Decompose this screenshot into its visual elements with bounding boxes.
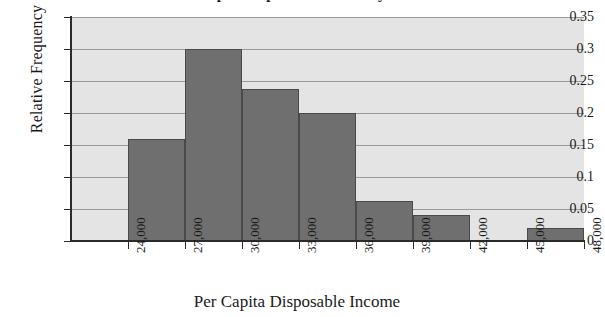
x-tick-mark [299,242,300,249]
x-tick-label: 48,000 [589,217,605,253]
bars-layer [71,17,584,241]
y-tick-label: 0.05 [532,202,594,216]
chart-title: Per Capita Disposable Income by State [0,0,594,3]
x-axis-title: Per Capita Disposable Income [0,292,594,312]
x-tick-mark [356,242,357,249]
y-tick-mark [64,241,71,242]
x-tick-mark [242,242,243,249]
x-tick-label: 42,000 [475,217,491,253]
y-tick-mark [64,113,71,114]
x-tick-mark [128,242,129,249]
x-tick-label: 36,000 [361,217,377,253]
y-tick-label: 0.2 [532,106,594,120]
y-tick-label: 0.25 [532,74,594,88]
x-tick-mark [527,242,528,249]
histogram-bar [185,49,242,241]
y-tick-label: 0.35 [532,10,594,24]
y-tick-mark [64,81,71,82]
y-tick-mark [64,49,71,50]
x-tick-mark [185,242,186,249]
x-tick-label: 33,000 [304,217,320,253]
y-tick-label: 0.15 [532,138,594,152]
x-tick-label: 39,000 [418,217,434,253]
y-tick-label: 0.1 [532,170,594,184]
plot-area [71,17,584,241]
x-tick-label: 45,000 [532,217,548,253]
x-tick-mark [584,242,585,249]
y-tick-mark [64,145,71,146]
x-tick-label: 24,000 [133,217,149,253]
y-axis-title: Relative Frequency [28,0,46,184]
y-tick-label: 0.3 [532,42,594,56]
x-tick-label: 27,000 [190,217,206,253]
x-tick-mark [470,242,471,249]
x-tick-mark [413,242,414,249]
y-tick-mark [64,177,71,178]
y-tick-mark [64,17,71,18]
x-tick-label: 30,000 [247,217,263,253]
y-tick-mark [64,209,71,210]
